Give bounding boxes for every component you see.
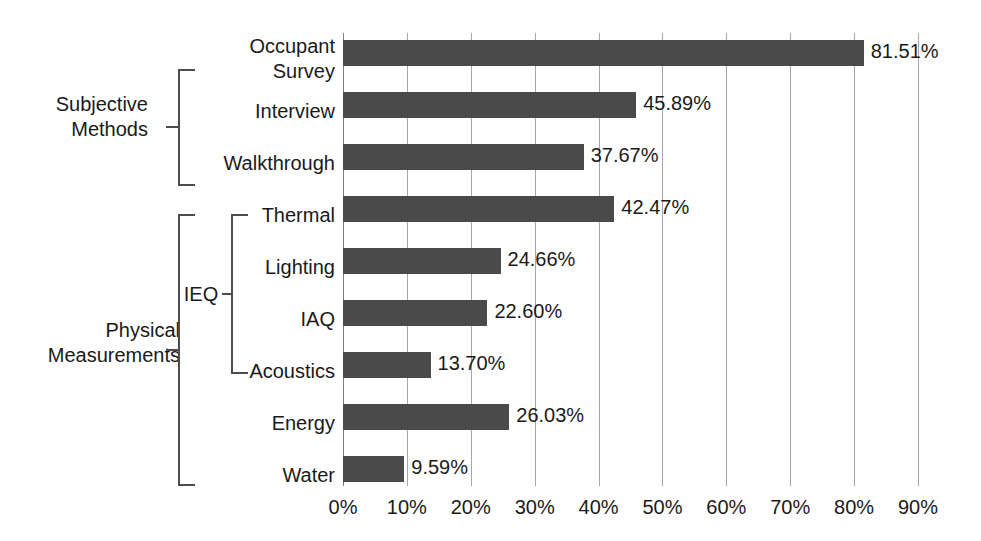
category-label: Lighting [265,255,338,280]
bar [343,248,501,274]
bar [343,456,404,482]
bar-row: Lighting24.66% [343,241,918,293]
category-label: Energy [272,411,338,436]
bar [343,404,509,430]
bar-value-label: 81.51% [864,38,939,64]
x-tick-90%: 90% [888,495,948,519]
category-label-wrap: Lighting [38,241,338,293]
bar-row: Thermal42.47% [343,189,918,241]
category-label: Water [282,463,338,488]
bar [343,40,864,66]
chart-page: Subjective Methods Physical Measurements… [0,0,981,541]
x-tick-10%: 10% [377,495,437,519]
category-label-wrap: Occupant Survey [38,33,338,85]
bar-value-label: 37.67% [584,142,659,168]
bar-row: Occupant Survey81.51% [343,33,918,85]
bar-value-label: 9.59% [404,454,468,480]
x-tick-20%: 20% [441,495,501,519]
category-label-wrap: Thermal [38,189,338,241]
bar [343,144,584,170]
bar-row: IAQ22.60% [343,293,918,345]
bar-value-label: 45.89% [636,90,711,116]
x-tick-30%: 30% [505,495,565,519]
category-label: Interview [255,99,338,124]
category-label-wrap: IAQ [38,293,338,345]
category-label-wrap: Energy [38,397,338,449]
bar [343,196,614,222]
category-label-wrap: Water [38,449,338,501]
bar-row: Walkthrough37.67% [343,137,918,189]
bar-value-label: 22.60% [487,298,562,324]
category-label: Occupant Survey [249,34,338,84]
category-label: Thermal [262,203,338,228]
category-label-wrap: Acoustics [38,345,338,397]
x-tick-40%: 40% [569,495,629,519]
x-tick-70%: 70% [760,495,820,519]
category-label: Acoustics [249,359,338,384]
bar-row: Energy26.03% [343,397,918,449]
x-tick-0%: 0% [313,495,373,519]
x-tick-80%: 80% [824,495,884,519]
category-label: Walkthrough [223,151,338,176]
x-tick-50%: 50% [632,495,692,519]
bar-value-label: 42.47% [614,194,689,220]
bar-row: Acoustics13.70% [343,345,918,397]
x-tick-60%: 60% [696,495,756,519]
bar-row: Water9.59% [343,449,918,501]
gridline-90% [918,33,919,486]
bar [343,92,636,118]
bar [343,352,431,378]
bar [343,300,487,326]
category-label-wrap: Interview [38,85,338,137]
bar-row: Interview45.89% [343,85,918,137]
bar-value-label: 24.66% [501,246,576,272]
category-label-wrap: Walkthrough [38,137,338,189]
bar-value-label: 13.70% [431,350,506,376]
category-label: IAQ [301,307,338,332]
plot-area: Occupant Survey81.51%Interview45.89%Walk… [343,33,918,486]
bar-value-label: 26.03% [509,402,584,428]
